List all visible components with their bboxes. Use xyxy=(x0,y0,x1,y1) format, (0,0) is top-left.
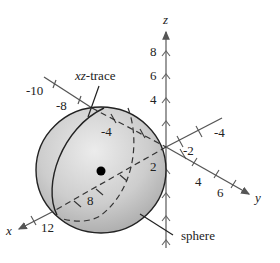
y-tick-2: 2 xyxy=(150,159,157,174)
y-tick-neg2: -2 xyxy=(183,143,194,158)
sphere-leader xyxy=(140,214,173,235)
z-tick-6: 6 xyxy=(150,68,157,83)
sphere-diagram: xz-trace sphere z x y 8 6 4 -10 -8 -4 8 … xyxy=(0,0,280,263)
sphere-label: sphere xyxy=(181,228,215,243)
y-tick-neg4: -4 xyxy=(214,125,225,140)
x-tick-12: 12 xyxy=(41,220,54,235)
y-tick-4: 4 xyxy=(195,174,202,189)
x-tick-neg10: -10 xyxy=(26,83,43,98)
z-tick-8: 8 xyxy=(150,44,157,59)
y-axis-label: y xyxy=(253,190,261,205)
z-axis-label: z xyxy=(162,12,168,27)
x-tick-neg8: -8 xyxy=(56,98,67,113)
y-axis-positive xyxy=(166,147,249,194)
z-tick-4: 4 xyxy=(150,92,157,107)
x-tick-neg4: -4 xyxy=(101,124,112,139)
x-axis-label: x xyxy=(5,223,12,238)
sphere-center-dot xyxy=(97,167,106,176)
x-tick-8: 8 xyxy=(87,193,94,208)
xz-trace-label: xz-trace xyxy=(74,68,116,83)
y-tick-6: 6 xyxy=(217,185,224,200)
